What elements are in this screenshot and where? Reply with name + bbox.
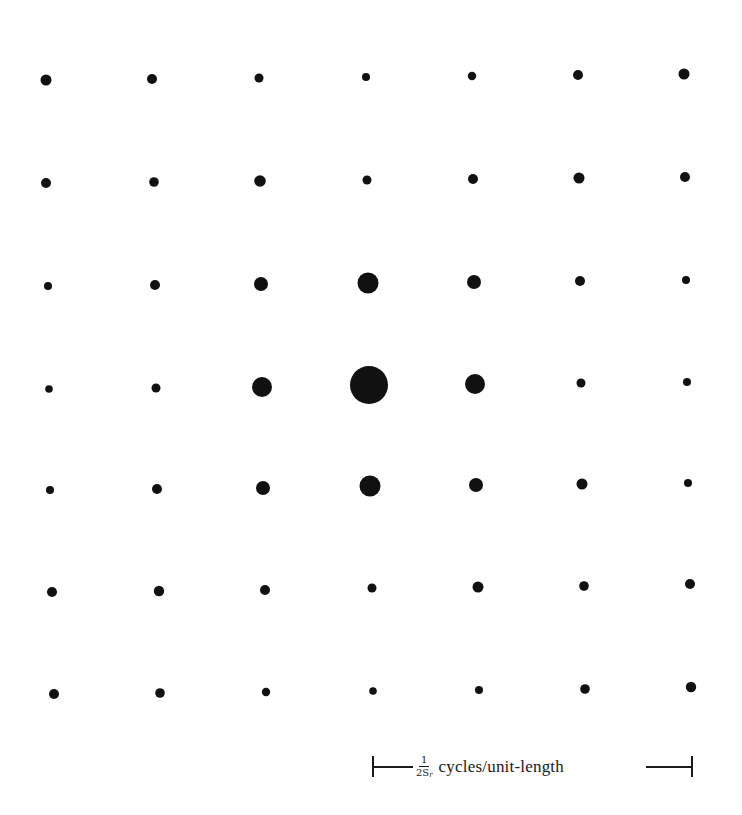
lattice-dot-r1-c2 (254, 175, 266, 187)
lattice-dot-r2-c1 (150, 280, 160, 290)
lattice-dot-r2-c3 (358, 273, 379, 294)
lattice-dot-r1-c1 (149, 177, 159, 187)
lattice-dot-r2-c4 (467, 275, 481, 289)
dot-lattice (0, 0, 742, 815)
lattice-dot-r3-c1 (152, 384, 161, 393)
lattice-dot-r6-c5 (580, 684, 590, 694)
scale-bar-right-line (646, 766, 692, 768)
fraction-denominator: 2Sr (416, 767, 433, 780)
lattice-dot-r1-c5 (574, 173, 585, 184)
figure-canvas: 1 2Sr cycles/unit-length (0, 0, 742, 815)
lattice-dot-r5-c3 (368, 584, 377, 593)
scale-fraction: 1 2Sr (416, 755, 433, 780)
scale-bar-left-line (373, 766, 413, 768)
scale-bar: 1 2Sr cycles/unit-length (372, 752, 694, 782)
denominator-base: 2S (416, 767, 429, 778)
lattice-dot-r0-c6 (679, 69, 690, 80)
lattice-dot-r3-c2 (252, 377, 272, 397)
lattice-dot-r4-c1 (152, 484, 162, 494)
lattice-dot-r5-c5 (579, 581, 589, 591)
lattice-dot-r6-c1 (155, 688, 165, 698)
lattice-dot-r2-c6 (682, 276, 690, 284)
lattice-dot-r4-c4 (469, 478, 483, 492)
lattice-dot-r5-c1 (154, 586, 164, 596)
lattice-dot-r0-c5 (573, 70, 583, 80)
lattice-dot-r6-c4 (475, 686, 483, 694)
lattice-dot-r4-c2 (256, 481, 270, 495)
scale-bar-right-tick (691, 756, 693, 777)
lattice-dot-r3-c5 (577, 379, 586, 388)
fraction-numerator: 1 (419, 755, 429, 767)
lattice-dot-r0-c3 (362, 73, 370, 81)
lattice-dot-r5-c4 (473, 582, 484, 593)
lattice-dot-r4-c3 (360, 476, 381, 497)
scale-bar-label: 1 2Sr cycles/unit-length (416, 752, 564, 782)
lattice-dot-r5-c6 (685, 579, 695, 589)
lattice-dot-r1-c0 (41, 178, 51, 188)
lattice-dot-r2-c2 (254, 277, 268, 291)
lattice-dot-r3-c3 (350, 366, 388, 404)
lattice-dot-r2-c0 (44, 282, 52, 290)
lattice-dot-r1-c6 (680, 172, 690, 182)
lattice-dot-r6-c3 (369, 687, 377, 695)
lattice-dot-r4-c0 (46, 486, 54, 494)
lattice-dot-r2-c5 (575, 276, 585, 286)
lattice-dot-r3-c0 (45, 385, 53, 393)
lattice-dot-r0-c1 (147, 74, 157, 84)
lattice-dot-r0-c4 (468, 72, 476, 80)
lattice-dot-r1-c3 (363, 176, 372, 185)
lattice-dot-r3-c6 (683, 378, 691, 386)
lattice-dot-r3-c4 (465, 374, 485, 394)
units-label: cycles/unit-length (439, 757, 564, 777)
lattice-dot-r4-c6 (684, 479, 692, 487)
lattice-dot-r6-c0 (49, 689, 59, 699)
lattice-dot-r5-c2 (260, 585, 270, 595)
lattice-dot-r1-c4 (468, 174, 478, 184)
lattice-dot-r5-c0 (47, 587, 57, 597)
denominator-subscript: r (429, 771, 432, 779)
lattice-dot-r6-c6 (686, 682, 696, 692)
lattice-dot-r0-c0 (41, 75, 52, 86)
lattice-dot-r6-c2 (262, 688, 270, 696)
lattice-dot-r0-c2 (255, 74, 264, 83)
lattice-dot-r4-c5 (577, 479, 588, 490)
